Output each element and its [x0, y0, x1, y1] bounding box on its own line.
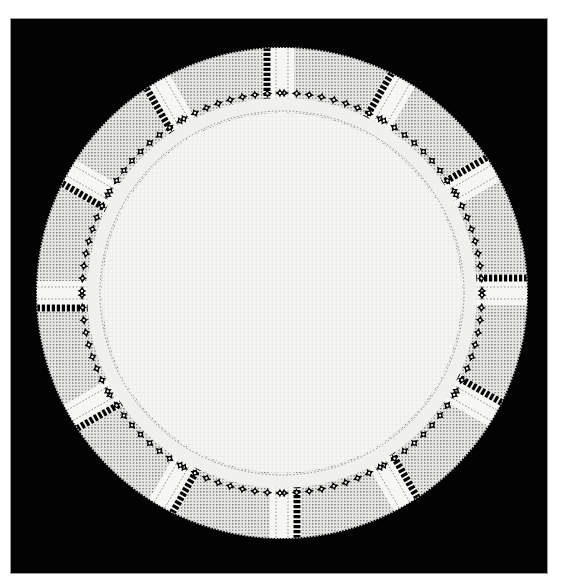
doily-illustration: [0, 0, 564, 587]
linen-center: [102, 113, 462, 473]
